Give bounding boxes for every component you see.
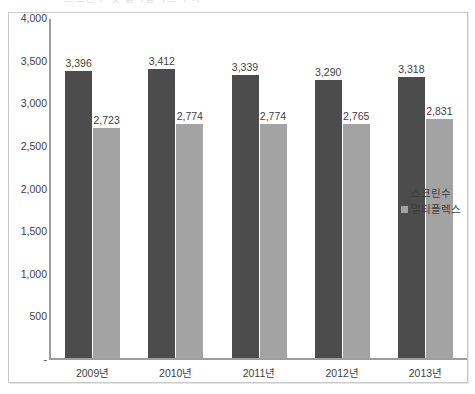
bar-value-label: 2,774 (177, 110, 203, 122)
bar-screens[interactable]: 3,318 (398, 77, 425, 360)
bar-value-label: 2,774 (260, 110, 286, 122)
bar-value-label: 3,412 (149, 55, 175, 67)
y-axis-tick-label: - (9, 354, 47, 365)
y-axis-tick-label: 4,000 (9, 13, 47, 24)
legend-swatch-icon (401, 190, 408, 197)
bar-screens[interactable]: 3,396 (65, 71, 92, 361)
chart-legend: 스크린수멀티플렉스 (401, 185, 467, 217)
bar-value-label: 2,765 (343, 110, 369, 122)
clipped-chart-title: 스크린수 및 멀티플렉스 추이 (64, 0, 314, 4)
bar-value-label: 3,339 (232, 61, 258, 73)
y-axis-tick-label: 500 (9, 311, 47, 322)
x-axis-tick-label: 2009년 (51, 367, 134, 379)
bar-value-label: 3,396 (65, 57, 91, 69)
y-axis-tick-label: 2,000 (9, 184, 47, 195)
bar-value-label: 2,831 (426, 105, 452, 117)
bar-multiplex[interactable]: 2,765 (343, 124, 370, 360)
bar-screens[interactable]: 3,290 (315, 80, 342, 360)
bar-cluster: 3,2902,765 (315, 19, 370, 360)
bar-multiplex[interactable]: 2,831 (426, 119, 453, 360)
x-axis-tick-label: 2012년 (301, 367, 384, 379)
bar-screens[interactable]: 3,339 (232, 75, 259, 360)
bar-multiplex[interactable]: 2,723 (93, 128, 120, 360)
legend-swatch-icon (401, 206, 408, 213)
y-axis-tick-label: 2,500 (9, 141, 47, 152)
y-axis-tick-label: 3,000 (9, 98, 47, 109)
bar-cluster: 3,3962,723 (65, 19, 120, 360)
y-axis-tick-label: 1,500 (9, 226, 47, 237)
x-axis-tick-label: 2010년 (134, 367, 217, 379)
bar-value-label: 3,318 (398, 63, 424, 75)
x-axis: 2009년2010년2011년2012년2013년 (51, 363, 467, 383)
chart-frame: -5001,0001,5002,0002,5003,0003,5004,000 … (8, 12, 468, 383)
y-axis: -5001,0001,5002,0002,5003,0003,5004,000 (9, 13, 47, 384)
y-axis-tick-label: 1,000 (9, 269, 47, 280)
y-axis-tick-label: 3,500 (9, 56, 47, 67)
legend-item-screens[interactable]: 스크린수 (401, 185, 467, 201)
bar-cluster: 3,4122,774 (148, 19, 203, 360)
legend-item-multiplex[interactable]: 멀티플렉스 (401, 201, 467, 217)
bar-cluster: 3,3392,774 (232, 19, 287, 360)
bar-value-label: 3,290 (315, 66, 341, 78)
bar-value-label: 2,723 (93, 114, 119, 126)
bar-multiplex[interactable]: 2,774 (260, 124, 287, 360)
bar-multiplex[interactable]: 2,774 (176, 124, 203, 360)
x-axis-tick-label: 2013년 (384, 367, 467, 379)
legend-label: 멀티플렉스 (411, 203, 461, 215)
x-axis-line (49, 358, 467, 360)
x-axis-tick-label: 2011년 (217, 367, 300, 379)
bar-screens[interactable]: 3,412 (148, 69, 175, 360)
legend-label: 스크린수 (411, 187, 451, 199)
